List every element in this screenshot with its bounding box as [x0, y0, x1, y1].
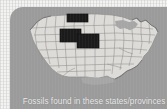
- figure-container: Fossils found in these states/provinces: [0, 0, 167, 109]
- figure-caption: Fossils found in these states/provinces: [20, 95, 167, 107]
- us-map-svg: [19, 8, 161, 96]
- highlight-colorado: [77, 34, 99, 48]
- gulf-of-mexico: [81, 77, 115, 85]
- us-map: [19, 8, 161, 96]
- figure-panel: Fossils found in these states/provinces: [10, 7, 167, 109]
- highlight-south-dakota: [67, 14, 88, 22]
- figure-caption-text: Fossils found in these states/provinces: [23, 97, 166, 106]
